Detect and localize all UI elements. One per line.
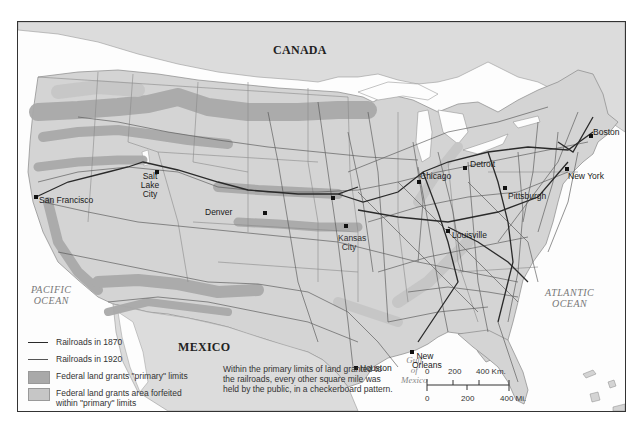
city-label-louisville: Louisville (452, 231, 487, 240)
city-label-detroit: Detroit (470, 160, 495, 169)
city-marker-denver (263, 211, 267, 215)
legend-line-swatch-1870 (28, 342, 48, 343)
legend-label-primary: Federal land grants "primary" limits (56, 371, 188, 381)
ocean-label-pacific-line1: PACIFIC (31, 284, 72, 295)
city-marker-louisville (446, 229, 450, 233)
note-line-3: held by the public, in a checkerboard pa… (223, 384, 393, 394)
scale-bar: 0 200 400 Km. 0 200 400 Mi. (426, 367, 556, 407)
legend-item-railroads-1870: Railroads in 1870 (28, 337, 196, 351)
legend-item-forfeited: Federal land grants area forfeited withi… (28, 388, 196, 410)
scale-km-200: 200 (448, 367, 461, 376)
legend-label-forfeited: Federal land grants area forfeited withi… (56, 388, 196, 408)
checkerboard-note: Within the primary limits of land grante… (223, 364, 393, 394)
ocean-label-atlantic-line1: ATLANTIC (545, 287, 594, 298)
scale-mi-400: 400 Mi. (500, 394, 526, 403)
legend-swatch-forfeited (28, 388, 50, 401)
city-label-pittsburgh: Pittsburgh (508, 192, 546, 201)
legend-line-swatch-1920 (28, 359, 48, 360)
city-marker-kansas-city (344, 224, 348, 228)
city-marker-san-francisco (34, 195, 38, 199)
city-label-san-francisco: San Francisco (39, 196, 93, 205)
legend-label-1870: Railroads in 1870 (56, 337, 122, 347)
ocean-label-atlantic-line2: OCEAN (545, 298, 594, 309)
city-label-chicago: Chicago (420, 172, 451, 181)
legend-label-1920: Railroads in 1920 (56, 354, 122, 364)
map-frame: CANADA MEXICO PACIFIC OCEAN ATLANTIC OCE… (17, 21, 626, 412)
legend-item-primary-limits: Federal land grants "primary" limits (28, 371, 196, 385)
city-label-boston: Boston (593, 128, 619, 137)
ocean-label-atlantic: ATLANTIC OCEAN (545, 287, 594, 309)
caribbean-islands (583, 370, 625, 411)
city-label-kansas-city: Kansas City (338, 234, 360, 252)
legend-item-railroads-1920: Railroads in 1920 (28, 354, 196, 368)
map-legend: Railroads in 1870 Railroads in 1920 Fede… (28, 337, 196, 412)
legend-swatch-primary (28, 371, 50, 384)
city-marker-detroit (463, 166, 467, 170)
scale-km-400: 400 Km. (476, 367, 506, 376)
ocean-label-pacific-line2: OCEAN (31, 295, 72, 306)
city-label-salt-lake-city: Salt Lake City (136, 172, 164, 199)
city-marker-pittsburgh (503, 186, 507, 190)
scale-bar-line (426, 377, 516, 393)
note-line-2: the railroads, every other square mile w… (223, 374, 393, 384)
scale-km-0: 0 (425, 367, 429, 376)
scale-mi-0: 0 (425, 394, 429, 403)
ocean-label-pacific: PACIFIC OCEAN (31, 284, 72, 306)
gulf-label-line3: Mexico (401, 375, 427, 385)
city-label-new-york: New York (568, 172, 604, 181)
scale-mi-200: 200 (461, 394, 474, 403)
country-label-canada: CANADA (273, 43, 327, 58)
note-line-1: Within the primary limits of land grante… (223, 364, 393, 374)
city-label-denver: Denver (205, 208, 232, 217)
city-marker-omaha (331, 196, 335, 200)
